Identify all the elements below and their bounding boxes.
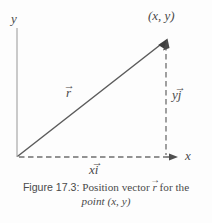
caption-line-1-middle: Position vector	[79, 181, 152, 193]
i-unit-symbol: i	[95, 162, 99, 177]
caption-figure-number: Figure 17.3:	[23, 181, 80, 193]
i-unit-group: →i	[95, 163, 99, 176]
caption-line-1-suffix: for the	[157, 181, 189, 193]
r-symbol-group: →r	[66, 86, 71, 99]
y-component-label: y→j	[172, 88, 181, 101]
caption-line-1: Figure 17.3: Position vector →r for the	[0, 180, 212, 194]
x-component-label: x→i	[89, 163, 98, 176]
position-vector-label: →r	[66, 86, 71, 99]
j-unit-group: →j	[178, 88, 182, 101]
j-unit-symbol: j	[178, 87, 182, 102]
figure-caption: Figure 17.3: Position vector →r for the …	[0, 180, 212, 208]
caption-r-symbol: r	[152, 181, 156, 193]
caption-line-2: point (x, y)	[0, 194, 212, 208]
x-axis-arrowhead	[169, 153, 178, 160]
y-axis-label: y	[11, 12, 17, 25]
x-axis-label: x	[185, 149, 191, 162]
r-symbol: r	[66, 85, 71, 100]
figure-container: y x (x, y) →r y→j x→i Figure 17.3: Posit…	[0, 0, 212, 223]
caption-r-group: →r	[152, 180, 156, 194]
point-coordinate-label: (x, y)	[148, 9, 175, 22]
position-vector-shaft	[18, 44, 162, 157]
